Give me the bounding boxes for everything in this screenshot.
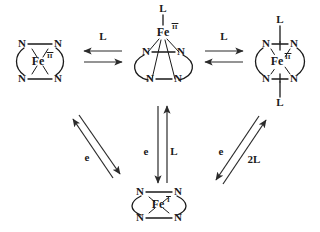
arrow-pair-left: L [84, 30, 122, 62]
atom-fe-center: Fe [32, 54, 45, 68]
arrow-left-diagonal-up [73, 119, 113, 178]
atom-n-top-right: N [54, 37, 62, 49]
atom-n-top-right: N [290, 37, 298, 49]
species-fe2-five-coordinate: L Fe II N N N N [135, 2, 193, 84]
ligand-axial-top: L [276, 13, 283, 25]
atom-n-bottom-left: N [262, 72, 270, 84]
arrow-label-right-L: L [220, 30, 227, 42]
arrow-label-right-diagonal-e: e [219, 145, 224, 157]
atom-fe-center: Fe [157, 25, 170, 39]
species-fe1-four-coordinate: N N N N Fe I [132, 185, 186, 223]
atom-n-back-right: N [174, 72, 182, 84]
atom-fe-center: Fe [152, 197, 165, 211]
arrow-label-center-e: e [144, 145, 149, 157]
atom-n-back-left: N [146, 72, 154, 84]
arrow-pair-center-vertical: e L [144, 106, 178, 183]
atom-n-front-right: N [177, 45, 185, 57]
atom-n-top-left: N [18, 37, 26, 49]
arrow-left-diagonal-down [79, 115, 120, 174]
arrow-label-right-diagonal-2L: 2L [248, 153, 261, 165]
chelate-bridge-right [297, 48, 305, 75]
atom-n-top-right: N [174, 185, 182, 197]
atom-n-top-left: N [136, 185, 144, 197]
atom-n-bottom-left: N [18, 72, 26, 84]
species-fe2-six-coordinate: L L N N N N Fe II [256, 13, 305, 108]
arrow-pair-right-diagonal: e 2L [216, 116, 266, 184]
arrow-pair-left-diagonal: e [73, 115, 120, 178]
atom-n-bottom-right: N [290, 72, 298, 84]
arrow-label-left-L: L [99, 30, 106, 42]
atom-n-bottom-left: N [136, 211, 144, 223]
atom-n-top-left: N [262, 37, 270, 49]
reaction-scheme-diagram: N N N N Fe II L L Fe II N N N [0, 0, 320, 232]
arrow-label-center-L: L [170, 145, 177, 157]
scheme-canvas: N N N N Fe II L L Fe II N N N [0, 0, 320, 232]
atom-n-bottom-right: N [54, 72, 62, 84]
atom-n-front-left: N [142, 45, 150, 57]
species-fe2-four-coordinate: N N N N Fe II [17, 37, 64, 84]
ligand-axial-top: L [159, 2, 166, 14]
arrow-label-left-diagonal-e: e [85, 151, 90, 163]
atom-fe-center: Fe [271, 54, 284, 68]
arrow-pair-right: L [205, 30, 243, 62]
atom-n-bottom-right: N [174, 211, 182, 223]
